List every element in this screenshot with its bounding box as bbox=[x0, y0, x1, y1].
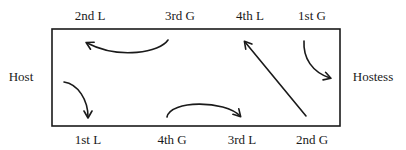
seat-label-bottom-2nd-g: 2nd G bbox=[296, 133, 328, 146]
arrow-host-to-1st-l-icon bbox=[64, 82, 88, 117]
arrows-group bbox=[64, 40, 330, 117]
seat-label-top-4th-l: 4th L bbox=[236, 9, 264, 22]
seat-label-bottom-1st-l: 1st L bbox=[75, 133, 101, 146]
arrow-1st-g-to-hostess-icon bbox=[304, 41, 330, 78]
seating-order-diagram: 2nd L 3rd G 4th L 1st G 1st L 4th G 3rd … bbox=[0, 0, 406, 150]
arrow-2nd-g-to-4th-l-icon bbox=[245, 42, 306, 116]
diagram-canvas bbox=[0, 0, 406, 150]
seat-label-top-1st-g: 1st G bbox=[298, 9, 326, 22]
seat-label-bottom-4th-g: 4th G bbox=[157, 133, 186, 146]
seat-label-bottom-3rd-l: 3rd L bbox=[228, 133, 257, 146]
table-rectangle bbox=[52, 29, 340, 126]
arrow-4th-g-to-3rd-l-icon bbox=[167, 104, 240, 117]
arrow-3rd-g-to-2nd-l-icon bbox=[87, 40, 168, 53]
hostess-label: Hostess bbox=[353, 70, 393, 83]
seat-label-top-3rd-g: 3rd G bbox=[165, 9, 195, 22]
host-label: Host bbox=[9, 70, 34, 83]
seat-label-top-2nd-l: 2nd L bbox=[75, 9, 106, 22]
